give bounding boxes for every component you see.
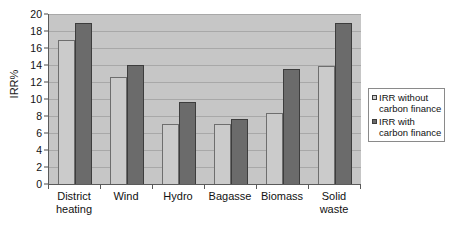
legend: IRR without carbon finance IRR with carb… [368,88,445,142]
x-tick-label: Solidwaste [308,190,360,230]
bar-group [318,14,352,184]
bar [110,77,127,184]
y-axis-label: IRR% [8,54,20,114]
y-tick-label: 20 [20,9,42,19]
bar [75,23,92,185]
x-tick-mark [308,185,309,189]
bar-chart-figure: IRR% 20181614121086420 DistrictheatingWi… [0,0,451,231]
x-tick-label-line: Wind [100,190,152,203]
x-tick-label: Bagasse [204,190,256,230]
bar-group [110,14,144,184]
legend-label-series-2-line-2: carbon finance [379,127,441,138]
y-tick-label: 10 [20,94,42,104]
x-tick-label-line: heating [48,203,100,216]
y-tick-label: 18 [20,26,42,36]
bar [162,124,179,184]
x-axis-tick-labels: DistrictheatingWindHydroBagasseBiomassSo… [48,190,360,230]
y-tick-label: 8 [20,111,42,121]
legend-label-series-2-line-1: IRR with [379,116,415,127]
y-tick-label: 4 [20,145,42,155]
x-tick-mark [48,185,49,189]
bar-groups [49,14,361,184]
legend-entry-irr-without-carbon-finance: IRR without carbon finance [372,92,442,114]
x-tick-label-line: Hydro [152,190,204,203]
bar-group [214,14,248,184]
legend-entry-irr-with-carbon-finance: IRR with carbon finance [372,116,442,138]
y-tick-label: 12 [20,77,42,87]
x-tick-label-line: Biomass [256,190,308,203]
bar [214,124,231,184]
legend-label-series-1-line-2: carbon finance [379,103,441,114]
x-tick-label-line: Solid [308,190,360,203]
y-tick-label: 2 [20,162,42,172]
x-tick-label: Wind [100,190,152,230]
legend-swatch-icon-series-2 [372,119,377,124]
bar [58,40,75,184]
x-tick-label: Districtheating [48,190,100,230]
y-tick-label: 14 [20,60,42,70]
legend-label-series-1-line-1: IRR without [379,92,428,103]
x-tick-mark [152,185,153,189]
x-tick-mark [204,185,205,189]
bar [127,65,144,184]
bar-group [58,14,92,184]
bar [266,113,283,184]
x-tick-label-line: District [48,190,100,203]
y-tick-label: 0 [20,179,42,189]
x-tick-label-line: waste [308,203,360,216]
x-tick-mark [360,185,361,189]
x-tick-label: Hydro [152,190,204,230]
plot-area [48,14,361,185]
legend-swatch-icon-series-1 [372,95,377,100]
legend-label-series-2: IRR with carbon finance [379,116,441,138]
bar-group [162,14,196,184]
bar [335,23,352,184]
y-tick-label: 6 [20,128,42,138]
x-tick-mark [256,185,257,189]
bar [231,119,248,184]
bar-group [266,14,300,184]
x-tick-label: Biomass [256,190,308,230]
y-tick-label: 16 [20,43,42,53]
y-axis-tick-labels: 20181614121086420 [20,14,42,184]
bar [318,66,335,184]
bar [283,69,300,184]
legend-label-series-1: IRR without carbon finance [379,92,441,114]
x-tick-label-line: Bagasse [204,190,256,203]
bar [179,102,196,184]
x-tick-mark [100,185,101,189]
